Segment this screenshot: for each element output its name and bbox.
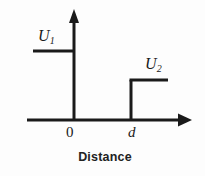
u1-subscript: 1 <box>50 35 55 46</box>
u2-subscript: 2 <box>157 63 162 74</box>
potential-step-figure: Potential Distance U1 U2 0 d <box>0 0 205 176</box>
u1-label: U1 <box>38 27 55 46</box>
x-tick-label-zero: 0 <box>66 124 74 141</box>
u2-symbol: U <box>145 55 157 72</box>
u2-label: U2 <box>145 55 162 74</box>
x-tick-label-d: d <box>128 124 136 141</box>
x-axis-title: Distance <box>48 150 162 164</box>
x-axis-arrow-icon <box>178 114 192 127</box>
y-axis-arrow-icon <box>69 9 79 23</box>
u1-symbol: U <box>38 27 50 44</box>
